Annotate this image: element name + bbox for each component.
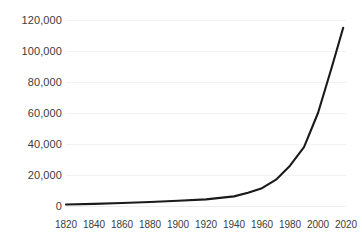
series-line-value (66, 20, 346, 206)
y-tick-label: 100,000 (0, 45, 62, 57)
y-tick-label: 20,000 (0, 169, 62, 181)
y-tick-label: 80,000 (0, 76, 62, 88)
x-axis: 1820184018601880190019201940196019802000… (0, 219, 353, 235)
y-tick-label: 0 (0, 200, 62, 212)
series-polyline (66, 28, 343, 205)
y-axis: 020,00040,00060,00080,000100,000120,000 (0, 0, 62, 226)
y-tick-label: 60,000 (0, 107, 62, 119)
y-tick-label: 120,000 (0, 14, 62, 26)
gridline (66, 206, 346, 207)
plot-area (66, 20, 346, 206)
x-tick-label: 2020 (324, 219, 362, 231)
y-tick-label: 40,000 (0, 138, 62, 150)
